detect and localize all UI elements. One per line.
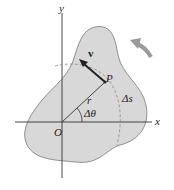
y-axis-label: y xyxy=(59,3,64,14)
point-label: P xyxy=(106,73,113,84)
radius-label: r xyxy=(87,95,91,106)
arc-length-label: Δs xyxy=(122,93,133,104)
velocity-label: v xyxy=(88,48,94,59)
rotation-arrowhead xyxy=(130,38,141,49)
x-axis-label: x xyxy=(155,116,160,127)
rigid-body-rotation-diagram: y x O P v r Δθ Δs xyxy=(0,0,174,190)
rotation-arrow-icon xyxy=(137,44,151,57)
angle-label: Δθ xyxy=(84,108,96,119)
origin-label: O xyxy=(54,127,62,138)
